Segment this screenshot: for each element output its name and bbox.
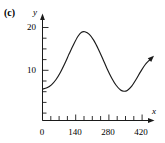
y-axis-ticks bbox=[43, 28, 49, 114]
y-tick-label-10: 10 bbox=[14, 65, 36, 75]
y-axis-arrow-icon bbox=[40, 14, 45, 21]
figure-panel: (c) y x bbox=[0, 0, 165, 143]
x-tick-label-140: 140 bbox=[62, 127, 88, 137]
data-curve bbox=[43, 32, 154, 92]
x-axis-arrow-icon bbox=[148, 118, 155, 123]
y-tick-label-20: 20 bbox=[14, 22, 36, 32]
x-tick-label-280: 280 bbox=[95, 127, 121, 137]
x-tick-label-0: 0 bbox=[29, 127, 55, 137]
x-axis-ticks bbox=[43, 115, 143, 121]
curve-line bbox=[43, 32, 152, 92]
x-tick-label-420: 420 bbox=[128, 127, 154, 137]
axes-group bbox=[40, 14, 154, 123]
